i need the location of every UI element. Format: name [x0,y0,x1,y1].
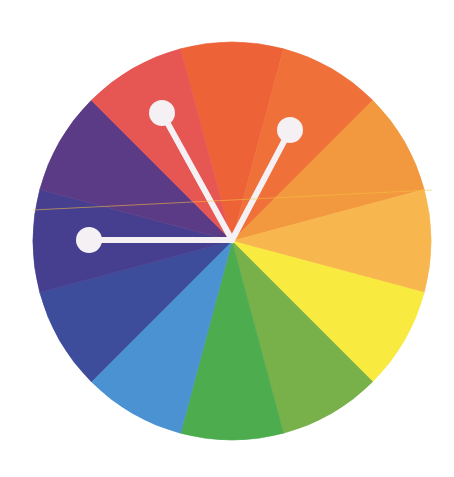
pointer-top-right-knob[interactable] [277,117,303,143]
pointer-left-knob[interactable] [76,227,102,253]
color-wheel [0,0,454,477]
pointer-top-left-knob[interactable] [149,100,175,126]
